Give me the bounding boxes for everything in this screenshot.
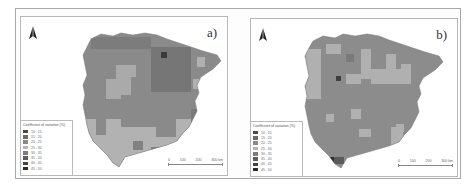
legend: Coefficient of variation (%) 10 - 15 15 …	[21, 120, 73, 175]
legend-label: 35 - 40	[261, 157, 272, 161]
legend-swatch	[23, 130, 28, 134]
legend-label: 40 - 45	[261, 162, 272, 166]
legend-swatch	[253, 147, 258, 151]
scale-tick-label: 300 km	[211, 158, 223, 162]
legend-swatch	[253, 157, 258, 161]
legend-label: 20 - 25	[261, 141, 272, 145]
scale-tick-label: 0	[398, 159, 400, 163]
legend-title: Coefficient of variation (%)	[23, 123, 70, 127]
legend-swatch	[23, 151, 28, 155]
legend-swatch	[23, 135, 28, 139]
legend-item: 45 - 50	[253, 167, 300, 172]
legend: Coefficient of variation (%) 10 - 15 15 …	[251, 121, 303, 176]
legend-swatch	[23, 140, 28, 144]
legend-label: 25 - 30	[31, 146, 42, 150]
legend-swatch	[253, 168, 258, 172]
legend-label: 10 - 15	[261, 131, 272, 135]
scale-tick-label: 0	[168, 158, 170, 162]
scale-tick-label: 100	[410, 159, 416, 163]
legend-swatch	[253, 152, 258, 156]
legend-swatch	[253, 141, 258, 145]
scale-tick-label: 300 km	[441, 159, 453, 163]
legend-label: 30 - 35	[261, 152, 272, 156]
scale-bar: 0 100 200 300 km	[168, 158, 223, 170]
legend-label: 10 - 15	[31, 130, 42, 134]
legend-item: 45 - 50	[23, 166, 70, 171]
legend-title: Coefficient of variation (%)	[253, 124, 300, 128]
scale-tick-label: 100	[180, 158, 186, 162]
scale-bar: 0 100 200 300 km	[398, 159, 453, 171]
legend-swatch	[23, 156, 28, 160]
legend-label: 40 - 45	[31, 161, 42, 165]
legend-label: 30 - 35	[31, 151, 42, 155]
legend-swatch	[253, 136, 258, 140]
scale-tick-label: 200	[425, 159, 431, 163]
legend-label: 45 - 50	[31, 167, 42, 171]
legend-label: 15 - 20	[31, 135, 42, 139]
legend-swatch	[23, 162, 28, 166]
legend-label: 20 - 25	[31, 140, 42, 144]
map-panel-a: a)	[20, 16, 228, 176]
legend-label: 35 - 40	[31, 156, 42, 160]
legend-swatch	[23, 167, 28, 171]
legend-swatch	[253, 163, 258, 167]
legend-swatch	[23, 146, 28, 150]
legend-label: 25 - 30	[261, 147, 272, 151]
legend-label: 15 - 20	[261, 136, 272, 140]
legend-label: 45 - 50	[261, 168, 272, 172]
scale-tick-label: 200	[195, 158, 201, 162]
scale-line	[398, 165, 453, 168]
map-panel-b: b)	[250, 18, 458, 177]
scale-line	[168, 164, 223, 167]
legend-swatch	[253, 131, 258, 135]
